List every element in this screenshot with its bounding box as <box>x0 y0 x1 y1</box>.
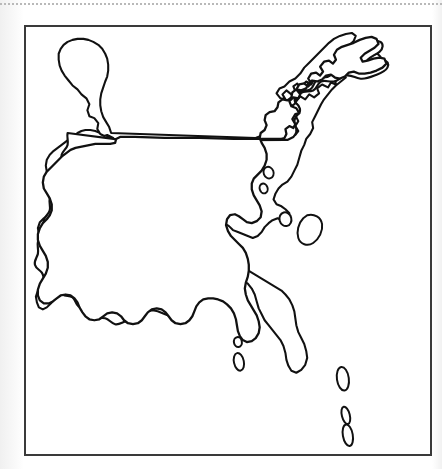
island-saint-martins-north <box>340 406 352 425</box>
map-accessible-title: Bangladesh outline map <box>0 0 1 1</box>
island-kutubdia <box>335 366 350 391</box>
island-hatiya <box>298 215 323 245</box>
scan-edge-right <box>432 0 442 469</box>
bangladesh-map-svg: Bangladesh outline map Blank line-art ou… <box>26 27 430 454</box>
mainland-boundary-refined <box>59 39 285 141</box>
page-canvas: Bangladesh outline map Blank line-art ou… <box>0 0 442 469</box>
map-frame: Bangladesh outline map Blank line-art ou… <box>24 25 432 456</box>
island-delta-south-b <box>232 352 245 372</box>
top-dotted-rule <box>0 3 442 5</box>
scan-edge-left <box>0 0 24 469</box>
island-saint-martins-south <box>341 424 355 447</box>
island-delta-south-a <box>233 336 243 347</box>
